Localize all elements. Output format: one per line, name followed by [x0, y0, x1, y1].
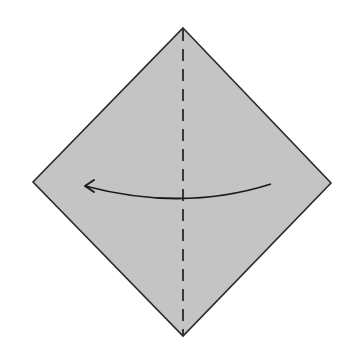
origami-diagram: Origami step: valley fold in half, right… [0, 0, 351, 355]
paper-square [33, 28, 331, 336]
diagram-canvas [0, 0, 351, 355]
